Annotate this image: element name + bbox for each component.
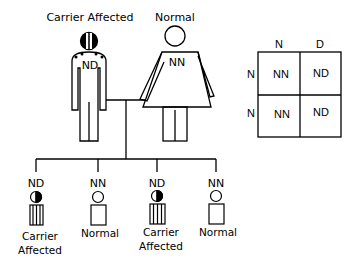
punnett-col-header-2: D (316, 38, 324, 50)
child-2: NN Normal (81, 177, 119, 239)
child-2-head-icon (93, 192, 104, 203)
punnett-cell-2-2: ND (313, 106, 329, 118)
child-4-phenotype-line1: Normal (199, 226, 237, 238)
child-2-phenotype-line1: Normal (81, 227, 119, 239)
mother-phenotype-label: Normal (155, 11, 195, 24)
father-genotype-label: ND (82, 59, 99, 72)
child-1: ND Carrier Affected (18, 177, 62, 256)
father-phenotype-label: Carrier Affected (46, 11, 133, 24)
mother-figure: Normal NN (140, 11, 214, 141)
mother-head-icon (165, 26, 185, 46)
pedigree-diagram: Carrier Affected ND Normal NN (0, 0, 358, 269)
child-3-body-striped-icon (150, 204, 165, 224)
punnett-col-header-1: N (275, 38, 283, 50)
punnett-row-header-2: N (247, 107, 255, 119)
pedigree-lines (36, 100, 216, 172)
child-2-body-icon (91, 205, 106, 225)
child-4: NN Normal (199, 177, 237, 238)
punnett-cell-1-2: ND (313, 67, 329, 79)
child-1-body-striped-icon (30, 205, 43, 225)
child-2-genotype: NN (90, 177, 106, 190)
punnett-row-header-1: N (247, 68, 255, 80)
punnett-grid (258, 52, 341, 137)
child-4-head-icon (211, 191, 222, 202)
child-3-phenotype-line1: Carrier (143, 226, 180, 238)
punnett-square: N D N N NN ND NN ND (247, 38, 341, 137)
child-1-phenotype-line2: Affected (18, 244, 62, 256)
punnett-cell-2-1: NN (274, 108, 290, 120)
mother-genotype-label: NN (169, 56, 185, 69)
child-3-genotype: ND (149, 177, 166, 190)
child-1-head-striped-icon (31, 192, 42, 203)
child-4-body-icon (209, 204, 224, 224)
child-1-phenotype-line1: Carrier (22, 230, 59, 242)
child-3-head-striped-icon (152, 191, 163, 202)
child-4-genotype: NN (208, 177, 224, 190)
father-figure: Carrier Affected ND (46, 11, 133, 141)
child-3-phenotype-line2: Affected (139, 240, 183, 252)
child-3: ND Carrier Affected (139, 177, 183, 252)
punnett-cell-1-1: NN (273, 68, 289, 80)
child-1-genotype: ND (28, 177, 45, 190)
father-head-striped-icon (81, 33, 98, 50)
